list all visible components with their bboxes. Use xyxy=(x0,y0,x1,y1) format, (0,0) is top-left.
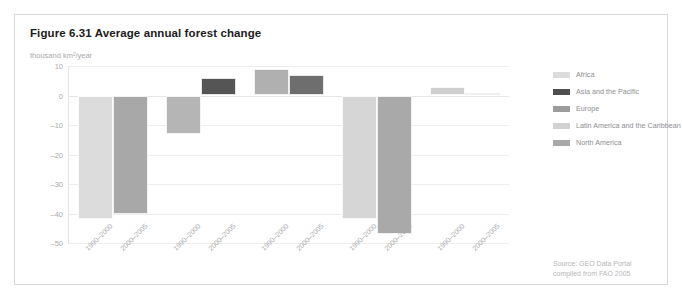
legend: AfricaAsia and the PacificEuropeLatin Am… xyxy=(553,67,668,152)
legend-item-label: Asia and the Pacific xyxy=(576,88,639,95)
legend-item[interactable]: Asia and the Pacific xyxy=(553,84,668,99)
y-axis-tick-label: –10 xyxy=(50,121,63,130)
bar xyxy=(289,75,324,96)
bar xyxy=(377,96,412,235)
legend-swatch-icon xyxy=(553,89,570,95)
bar xyxy=(113,96,148,214)
gridline xyxy=(69,66,509,67)
legend-swatch-icon xyxy=(553,140,570,146)
legend-item[interactable]: Europe xyxy=(553,101,668,116)
source-line-2: compiled from FAO 2005 xyxy=(553,269,632,279)
y-axis-tick-labels: 100–10–20–30–40–50 xyxy=(31,66,63,243)
legend-item[interactable]: Latin America and the Caribbean xyxy=(553,118,668,133)
legend-item-label: Latin America and the Caribbean xyxy=(576,122,681,129)
bar xyxy=(254,69,289,96)
bar xyxy=(78,96,113,220)
y-axis-unit-label: thousand km²/year xyxy=(30,51,92,60)
bar xyxy=(430,87,465,96)
bar xyxy=(166,96,201,134)
legend-item-label: Africa xyxy=(576,71,594,78)
y-axis-tick-label: –30 xyxy=(50,180,63,189)
legend-item-label: Europe xyxy=(576,105,599,112)
figure-card: Figure 6.31 Average annual forest change… xyxy=(14,14,668,285)
bar xyxy=(342,96,377,220)
source-note: Source: GEO Data Portal compiled from FA… xyxy=(553,259,632,279)
y-axis-tick-label: –20 xyxy=(50,150,63,159)
y-axis-tick-label: 0 xyxy=(59,91,63,100)
bar xyxy=(201,78,236,96)
legend-swatch-icon xyxy=(553,72,570,78)
x-axis-tick-labels: 1990–20002000–20051990–20002000–20051990… xyxy=(69,247,519,297)
y-axis-tick-label: –50 xyxy=(50,239,63,248)
legend-swatch-icon xyxy=(553,106,570,112)
page-title: Figure 6.31 Average annual forest change xyxy=(30,27,261,39)
legend-item-label: North America xyxy=(576,139,622,146)
plot-area xyxy=(69,66,509,243)
source-line-1: Source: GEO Data Portal xyxy=(553,259,632,269)
legend-item[interactable]: Africa xyxy=(553,67,668,82)
bar xyxy=(465,93,500,96)
legend-swatch-icon xyxy=(553,123,570,129)
gridline xyxy=(69,214,509,215)
legend-item[interactable]: North America xyxy=(553,135,668,150)
y-axis-tick-label: –40 xyxy=(50,209,63,218)
y-axis-tick-label: 10 xyxy=(55,62,63,71)
